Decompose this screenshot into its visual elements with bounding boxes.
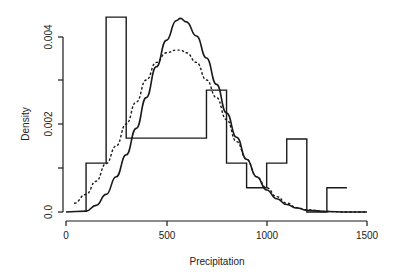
x-axis: 0 500 1000 1500 Precipitation [63,221,378,267]
y-axis: 0.0 0.002 0.004 Density [20,24,63,219]
x-tick-label: 0 [63,230,69,241]
solid-density-curve [66,18,367,212]
x-axis-label: Precipitation [189,256,244,267]
y-tick-label: 0.0 [43,205,54,219]
x-tick-label: 500 [159,230,176,241]
dashed-density-curve [74,50,367,212]
x-tick-label: 1500 [356,230,379,241]
histogram-bars [86,17,347,212]
y-tick-label: 0.002 [43,111,54,136]
y-tick-label: 0.004 [43,24,54,49]
plot-area [66,17,367,212]
density-histogram-chart: 0.0 0.002 0.004 Density 0 500 1000 1500 … [0,0,398,280]
x-tick-label: 1000 [256,230,279,241]
y-axis-label: Density [20,107,31,140]
